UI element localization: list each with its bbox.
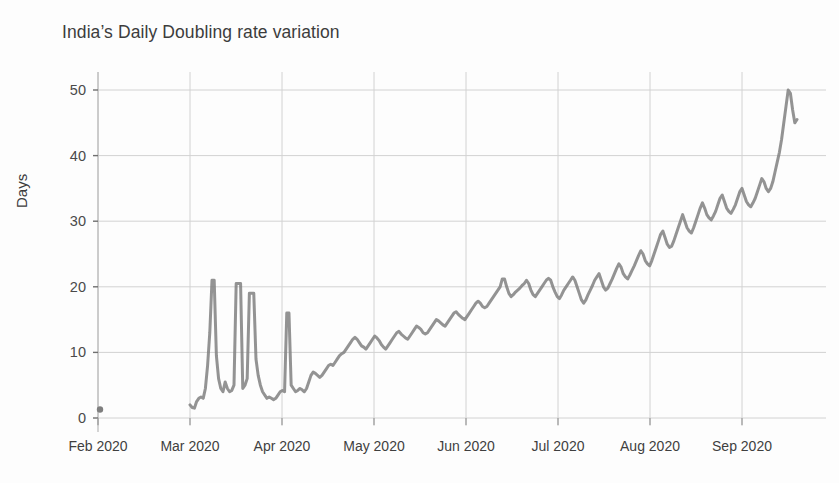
y-tick-label: 50 [70, 82, 86, 98]
y-tick-label: 10 [70, 344, 86, 360]
x-tick-label: Apr 2020 [254, 438, 311, 454]
x-tick-label: Mar 2020 [160, 438, 219, 454]
x-axis-ticks-group: Feb 2020Mar 2020Apr 2020May 2020Jun 2020… [68, 418, 772, 454]
y-axis-ticks-group: 01020304050 [70, 82, 98, 426]
origin-marker-group [97, 406, 103, 412]
chart-figure: India’s Daily Doubling rate variation Da… [0, 0, 839, 483]
data-line-daily-doubling-rate [190, 90, 797, 408]
y-tick-label: 20 [70, 279, 86, 295]
x-tick-label: Sep 2020 [712, 438, 772, 454]
x-tick-label: May 2020 [343, 438, 405, 454]
x-tick-label: Jun 2020 [437, 438, 495, 454]
x-tick-label: Aug 2020 [620, 438, 680, 454]
x-tick-label: Jul 2020 [532, 438, 585, 454]
y-tick-label: 30 [70, 213, 86, 229]
x-tick-label: Feb 2020 [68, 438, 127, 454]
line-chart-plot: 01020304050 Feb 2020Mar 2020Apr 2020May … [0, 0, 839, 483]
y-tick-label: 40 [70, 148, 86, 164]
origin-dot-marker [97, 406, 103, 412]
data-series-group [190, 90, 797, 408]
y-tick-label: 0 [78, 410, 86, 426]
